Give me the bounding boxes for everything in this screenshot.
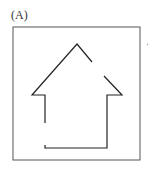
house-outline-figure <box>0 0 154 173</box>
stray-dot <box>147 44 148 45</box>
roof-right-segment <box>45 76 122 148</box>
roof-left-and-apex <box>32 44 92 123</box>
